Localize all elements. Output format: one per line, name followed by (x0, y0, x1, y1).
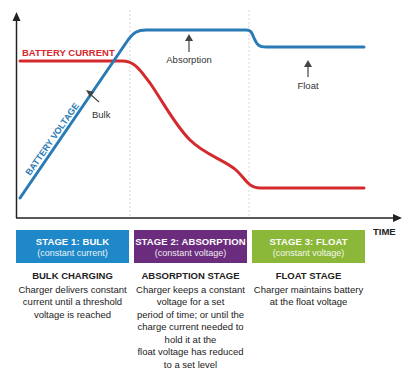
stage-1-desc-line: current until a threshold (10, 296, 135, 309)
stage-3-title: STAGE 3: FLOAT (252, 236, 365, 248)
y-axis-arrow-icon (13, 12, 21, 21)
stage-2-desc-line: hold it at the (128, 334, 253, 347)
stage-2-desc-line: to a set level (128, 359, 253, 372)
x-axis-label: TIME (373, 226, 396, 237)
battery-current-label: BATTERY CURRENT (22, 47, 115, 58)
stage-3-box: STAGE 3: FLOAT (constant voltage) (252, 230, 365, 263)
stage-2-desc-line: Charger keeps a constant (128, 284, 253, 297)
absorption-arrow-icon (185, 34, 193, 41)
float-arrow-icon (304, 60, 312, 67)
charging-chart: BATTERY CURRENT BATTERY VOLTAGE Bulk Abs… (0, 0, 411, 230)
x-axis-arrow-icon (393, 214, 402, 222)
stage-3-desc-line: at the float voltage (246, 296, 371, 309)
stage-1-description: BULK CHARGING Charger delivers constant … (10, 270, 135, 321)
stage-2-desc-line: period of time; or until the (128, 309, 253, 322)
absorption-annotation: Absorption (166, 54, 211, 65)
stage-2-desc-line: float voltage has reduced (128, 346, 253, 359)
stage-1-subtitle: (constant current) (16, 248, 129, 259)
stage-3-description: FLOAT STAGE Charger maintains battery at… (246, 270, 371, 309)
stage-2-subtitle: (constant voltage) (134, 248, 247, 259)
stage-2-title: STAGE 2: ABSORPTION (134, 236, 247, 248)
bulk-annotation: Bulk (92, 109, 111, 120)
stage-1-desc-line: voltage is reached (10, 309, 135, 322)
battery-voltage-label: BATTERY VOLTAGE (23, 101, 81, 177)
stage-1-desc-line: Charger delivers constant (10, 284, 135, 297)
stage-2-desc-title: ABSORPTION STAGE (128, 270, 253, 283)
stage-3-desc-title: FLOAT STAGE (246, 270, 371, 283)
stage-1-title: STAGE 1: BULK (16, 236, 129, 248)
float-annotation: Float (297, 80, 318, 91)
stage-3-subtitle: (constant voltage) (252, 248, 365, 259)
stage-2-box: STAGE 2: ABSORPTION (constant voltage) (134, 230, 247, 263)
stage-2-desc-line: charge current needed to (128, 321, 253, 334)
stage-1-desc-title: BULK CHARGING (10, 270, 135, 283)
stage-2-desc-line: voltage for a set (128, 296, 253, 309)
stage-3-desc-line: Charger maintains battery (246, 284, 371, 297)
stage-1-box: STAGE 1: BULK (constant current) (16, 230, 129, 263)
stage-2-description: ABSORPTION STAGE Charger keeps a constan… (128, 270, 253, 371)
